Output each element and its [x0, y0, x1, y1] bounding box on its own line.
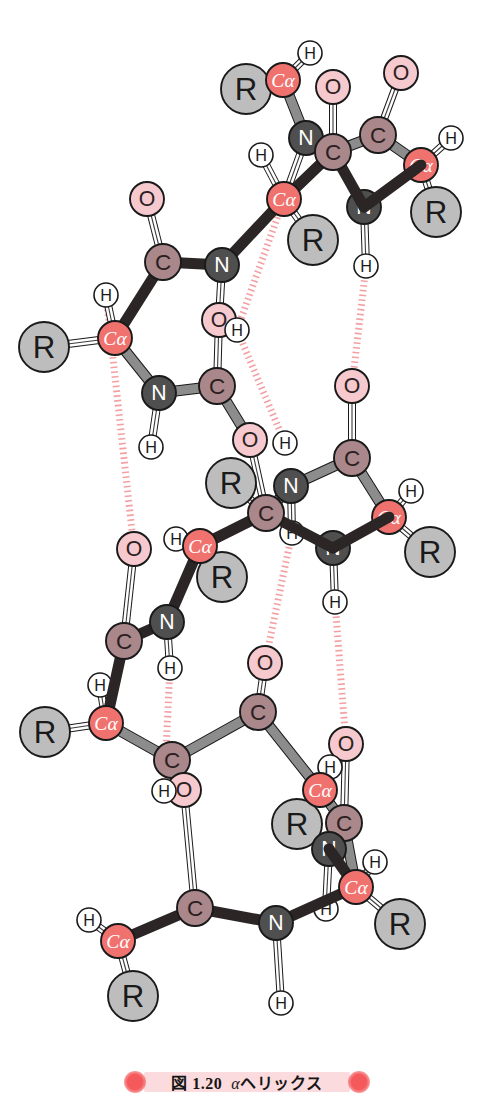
atom-h: H: [363, 850, 387, 874]
atom-label: Cα: [94, 713, 118, 734]
atom-o: O: [117, 532, 151, 566]
atom-h: H: [94, 283, 118, 307]
atom-label: Cα: [188, 536, 212, 557]
atom-label: C: [250, 700, 266, 725]
atom-label: H: [275, 994, 287, 1012]
atom-calpha: Cα: [98, 321, 132, 355]
atom-label: O: [338, 732, 355, 756]
atom-label: O: [344, 374, 361, 398]
atom-n: N: [205, 248, 239, 282]
atom-r: R: [108, 971, 158, 1021]
atom-h: H: [323, 590, 347, 614]
atom-label: R: [286, 807, 309, 842]
atom-label: N: [159, 610, 174, 634]
atom-label: C: [325, 140, 341, 165]
atom-o: O: [384, 56, 418, 90]
atom-r: R: [405, 527, 455, 577]
atom-calpha: Cα: [339, 870, 373, 904]
atom-label: O: [242, 428, 259, 452]
figure-root: RHOONCHCαRHRNHOHRNHOHCOHORNHCHCαRNHHROHH…: [0, 0, 492, 1117]
atom-calpha: Cα: [267, 182, 301, 216]
atom-label: O: [325, 75, 342, 99]
atom-c: C: [145, 244, 181, 280]
atom-c: C: [177, 890, 213, 926]
atom-label: R: [389, 907, 412, 942]
caption-dot-left-icon: [124, 1071, 146, 1093]
atom-label: O: [257, 651, 274, 675]
bond: [364, 165, 421, 207]
atom-label: C: [258, 501, 274, 526]
atom-label: H: [360, 257, 372, 275]
atom-label: C: [155, 250, 171, 275]
atom-h: H: [354, 254, 378, 278]
atom-c: C: [199, 368, 235, 404]
atom-h: H: [249, 143, 273, 167]
atom-label: O: [126, 537, 143, 561]
atom-label: H: [94, 676, 106, 694]
atom-r: R: [375, 899, 425, 949]
atom-h: H: [298, 41, 322, 65]
atom-o: O: [130, 182, 164, 216]
atom-r: R: [20, 707, 70, 757]
atom-label: H: [100, 286, 112, 304]
atom-r: R: [206, 458, 256, 508]
figure-caption: 図 1.20αヘリックス: [124, 1069, 370, 1095]
atom-h: H: [152, 779, 176, 803]
atom-label: H: [145, 438, 157, 456]
atom-n: N: [259, 906, 293, 940]
atom-c: C: [248, 495, 284, 531]
atom-label: R: [33, 330, 56, 365]
atom-label: C: [344, 446, 360, 471]
atom-label: C: [370, 123, 386, 148]
atom-label: H: [279, 434, 291, 452]
atom-n: N: [274, 469, 308, 503]
atom-r: R: [19, 322, 69, 372]
atom-label: N: [151, 381, 166, 405]
atom-label: R: [302, 223, 325, 258]
atom-label: Cα: [103, 328, 127, 349]
atom-o: O: [233, 423, 267, 457]
atom-label: N: [298, 126, 313, 150]
atom-label: C: [209, 374, 225, 399]
atom-label: Cα: [272, 189, 296, 210]
atom-label: R: [419, 535, 442, 570]
atom-label: C: [164, 748, 180, 773]
atom-label: H: [445, 129, 457, 147]
atom-h: H: [399, 479, 423, 503]
atom-label: N: [214, 253, 229, 277]
atom-calpha: Cα: [89, 706, 123, 740]
atom-h: H: [269, 991, 293, 1015]
atom-o: O: [248, 646, 282, 680]
atom-label: H: [369, 853, 381, 871]
atom-label: Cα: [344, 877, 368, 898]
atom-c: C: [334, 440, 370, 476]
atom-label: C: [336, 811, 352, 836]
caption-title: ヘリックス: [240, 1075, 323, 1092]
atom-h: H: [139, 435, 163, 459]
alpha-helix-diagram: RHOONCHCαRHRNHOHRNHOHCOHORNHCHCαRNHHROHH…: [0, 0, 492, 1040]
atom-h: H: [77, 908, 101, 932]
atom-label: R: [34, 715, 57, 750]
atom-calpha: Cα: [101, 924, 135, 958]
atom-label: R: [425, 195, 448, 230]
atom-label: R: [122, 979, 145, 1014]
atom-label: Cα: [308, 780, 332, 801]
atom-label: N: [268, 911, 283, 935]
atom-label: C: [116, 629, 132, 654]
atom-label: H: [405, 482, 417, 500]
atom-label: H: [83, 911, 95, 929]
atom-calpha: Cα: [266, 63, 300, 97]
atom-label: H: [255, 146, 267, 164]
atom-h: H: [273, 431, 297, 455]
caption-dot-right-icon: [348, 1071, 370, 1093]
atom-label: C: [187, 896, 203, 921]
atom-n: N: [150, 605, 184, 639]
atom-o: O: [335, 369, 369, 403]
atom-n: N: [142, 376, 176, 410]
caption-alpha-symbol: α: [231, 1075, 240, 1092]
atom-c: C: [360, 117, 396, 153]
atom-label: H: [304, 44, 316, 62]
atom-label: R: [211, 560, 234, 595]
atom-c: C: [240, 694, 276, 730]
atom-label: R: [220, 466, 243, 501]
